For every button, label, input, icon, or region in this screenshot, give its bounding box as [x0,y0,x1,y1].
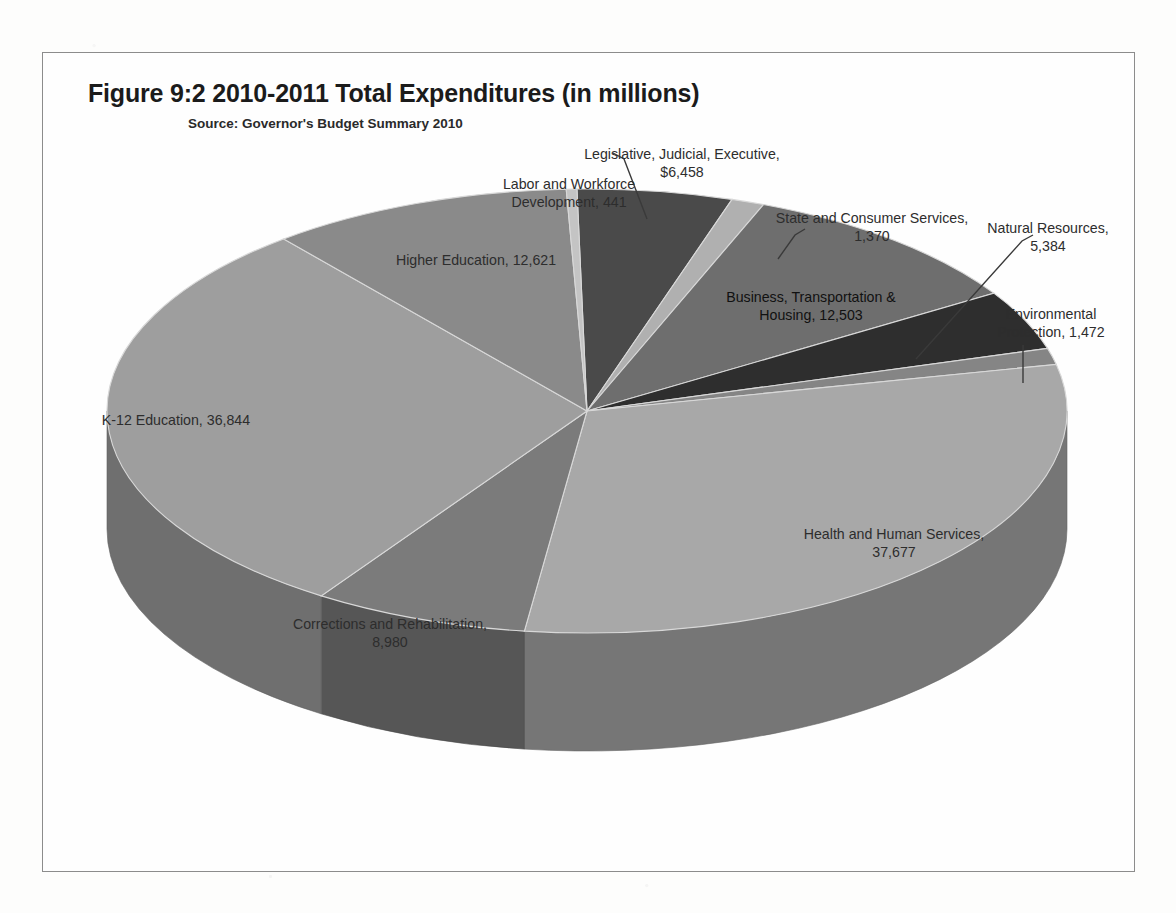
figure-frame: Figure 9:2 2010-2011 Total Expenditures … [42,52,1135,872]
slice-label-natural-resources: Natural Resources, 5,384 [963,219,1133,255]
slice-label-environmental-protection: Environmental Protection, 1,472 [965,305,1137,341]
slice-label-higher-education: Higher Education, 12,621 [361,251,591,269]
slice-label-health-and-human-services: Health and Human Services, 37,677 [769,525,1019,561]
slice-label-corrections-and-rehabilitation: Corrections and Rehabilitation, 8,980 [255,615,525,651]
slice-label-labor-and-workforce-development: Labor and Workforce Development, 441 [453,175,685,211]
slice-label-k-12-education: K-12 Education, 36,844 [61,411,291,429]
slice-label-business-transportation-housing: Business, Transportation & Housing, 12,5… [693,288,929,324]
